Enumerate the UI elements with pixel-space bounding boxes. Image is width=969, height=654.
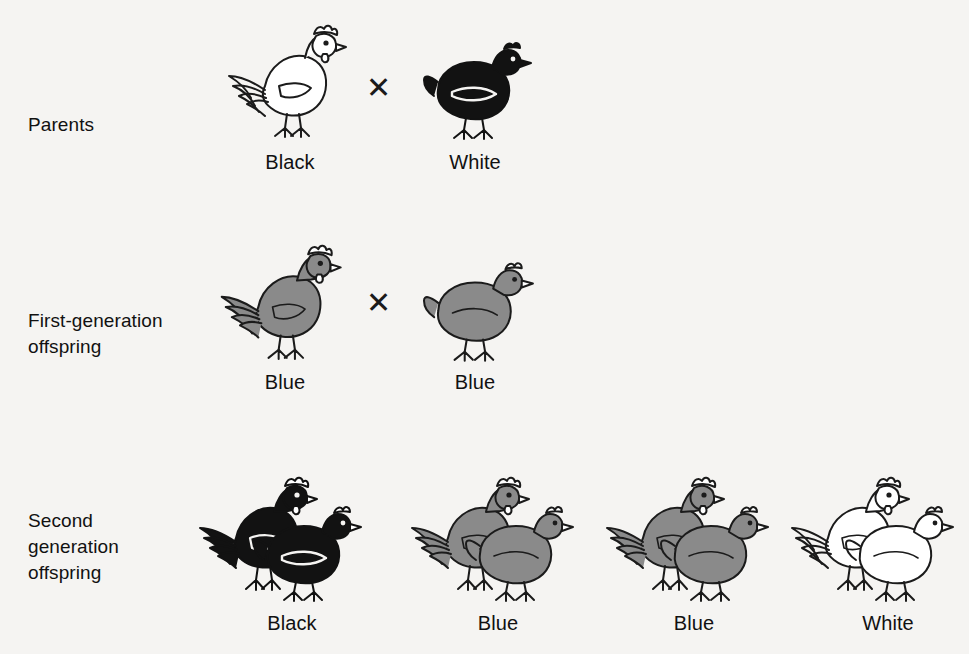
phenotype-label-f2-4: White bbox=[818, 612, 958, 635]
cross-symbol-parents: ✕ bbox=[366, 73, 391, 103]
pair-f2-1 bbox=[190, 482, 375, 602]
pair-f2-4 bbox=[782, 482, 967, 602]
pair-f2-3 bbox=[597, 482, 782, 602]
phenotype-label-f2-3: Blue bbox=[624, 612, 764, 635]
row-label-first-generation: First-generation offspring bbox=[28, 308, 163, 360]
cross-symbol-first-generation: ✕ bbox=[366, 288, 391, 318]
hen-f1-2 bbox=[424, 258, 538, 366]
phenotype-label-f1-1: Blue bbox=[215, 371, 355, 394]
hen-parents-2 bbox=[424, 38, 536, 144]
phenotype-label-parents-2: White bbox=[405, 151, 545, 174]
phenotype-label-f2-2: Blue bbox=[428, 612, 568, 635]
rooster-parents-1 bbox=[213, 24, 338, 144]
phenotype-label-f1-2: Blue bbox=[405, 371, 545, 394]
phenotype-label-f2-1: Black bbox=[222, 612, 362, 635]
phenotype-label-parents-1: Black bbox=[220, 151, 360, 174]
rooster-f1-1 bbox=[205, 244, 333, 366]
row-label-parents: Parents bbox=[28, 112, 94, 138]
pair-f2-2 bbox=[402, 482, 587, 602]
row-label-second-generation: Second generation offspring bbox=[28, 508, 119, 586]
genetics-cross-diagram: Parents bbox=[0, 0, 969, 654]
